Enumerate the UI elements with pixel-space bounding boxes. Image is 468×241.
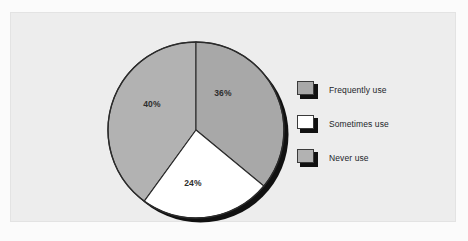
pie-chart-svg: 36% 40% 24% [97, 31, 297, 231]
legend-label-sometimes-use: Sometimes use [329, 119, 389, 129]
pie-label-sometimes-use: 24% [184, 178, 202, 188]
chart-legend: Frequently use Sometimes use Never use [297, 79, 457, 169]
legend-item-frequently-use[interactable]: Frequently use [297, 79, 457, 101]
legend-item-sometimes-use[interactable]: Sometimes use [297, 113, 457, 135]
pie-chart: 36% 40% 24% [97, 31, 297, 231]
legend-label-never-use: Never use [329, 153, 369, 163]
page-background: 36% 40% 24% Frequently use Sometimes use [0, 0, 468, 241]
legend-swatch-sometimes-use [297, 115, 318, 133]
legend-swatch-frequently-use [297, 81, 318, 99]
legend-swatch-face [297, 149, 314, 163]
chart-frame: 36% 40% 24% Frequently use Sometimes use [10, 12, 456, 222]
legend-label-frequently-use: Frequently use [329, 85, 387, 95]
legend-swatch-face [297, 115, 314, 129]
legend-swatch-face [297, 81, 314, 95]
legend-item-never-use[interactable]: Never use [297, 147, 457, 169]
legend-swatch-never-use [297, 149, 318, 167]
pie-label-frequently-use: 36% [214, 88, 232, 98]
pie-label-never-use: 40% [143, 99, 161, 109]
